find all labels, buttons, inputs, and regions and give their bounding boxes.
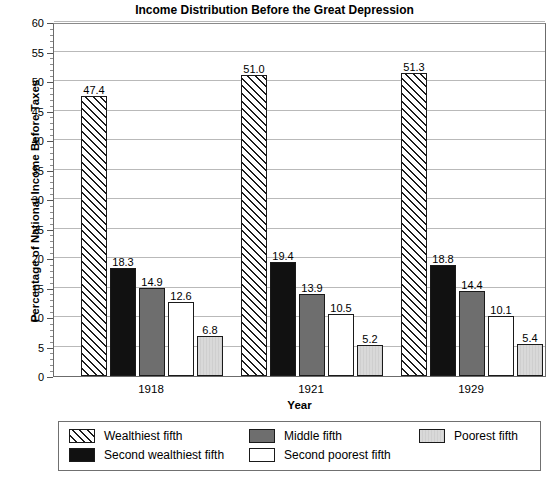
gridline <box>54 228 545 229</box>
bar-value-label: 12.6 <box>162 291 200 302</box>
bar-value-label: 14.4 <box>453 280 491 291</box>
gridline <box>54 139 545 140</box>
legend-entry: Middle fifth <box>249 428 342 444</box>
gridline <box>54 80 545 81</box>
x-axis-tick-label: 1921 <box>271 383 351 395</box>
y-axis-tick-label: 45 <box>32 107 44 118</box>
y-axis-tick-label: 0 <box>38 372 44 383</box>
bar <box>270 262 296 376</box>
bar <box>197 336 223 376</box>
bar-value-label: 6.8 <box>191 325 229 336</box>
gridline <box>54 110 545 111</box>
bar <box>401 73 427 376</box>
bar-value-label: 13.9 <box>293 283 331 294</box>
gridline <box>54 169 545 170</box>
x-axis-tick-label: 1929 <box>431 383 511 395</box>
y-axis-tick-label: 30 <box>32 195 44 206</box>
y-axis-tick-label: 25 <box>32 225 44 236</box>
legend-label: Wealthiest fifth <box>104 430 182 443</box>
plot-area: 47.418.314.912.66.851.019.413.910.55.251… <box>53 23 546 377</box>
y-axis-tick-label: 50 <box>32 77 44 88</box>
bar <box>81 96 107 376</box>
legend-label: Second wealthiest fifth <box>104 449 224 462</box>
bar <box>517 344 543 376</box>
bar-value-label: 47.4 <box>75 85 113 96</box>
y-axis-tick-label: 60 <box>32 18 44 29</box>
y-axis-tick-label: 5 <box>38 343 44 354</box>
legend-entry: Second poorest fifth <box>249 447 391 463</box>
chart-title: Income Distribution Before the Great Dep… <box>0 3 549 17</box>
gridline <box>54 198 545 199</box>
legend-swatch <box>249 429 275 443</box>
legend-label: Second poorest fifth <box>284 449 391 462</box>
gridline <box>54 21 545 22</box>
y-axis-tick-label: 35 <box>32 166 44 177</box>
chart-legend: Wealthiest fifthSecond wealthiest fifthM… <box>58 421 541 471</box>
bar-value-label: 51.3 <box>395 62 433 73</box>
legend-swatch <box>69 448 95 462</box>
y-axis-tick-label: 40 <box>32 136 44 147</box>
legend-swatch <box>69 429 95 443</box>
y-axis-tick-label: 10 <box>32 313 44 324</box>
legend-entry: Poorest fifth <box>419 428 518 444</box>
bar-value-label: 5.2 <box>351 334 389 345</box>
legend-entry: Second wealthiest fifth <box>69 447 224 463</box>
y-axis-tick-label: 20 <box>32 254 44 265</box>
bar <box>168 302 194 376</box>
bar <box>459 291 485 376</box>
y-axis: 051015202530354045505560 <box>0 23 53 379</box>
legend-swatch <box>419 429 445 443</box>
legend-label: Middle fifth <box>284 430 342 443</box>
legend-entry: Wealthiest fifth <box>69 428 182 444</box>
bar-value-label: 10.5 <box>322 303 360 314</box>
gridline <box>54 51 545 52</box>
bar-value-label: 19.4 <box>264 251 302 262</box>
legend-swatch <box>249 448 275 462</box>
bar-value-label: 5.4 <box>511 333 549 344</box>
bar-value-label: 18.8 <box>424 254 462 265</box>
x-axis-title: Year <box>53 399 546 411</box>
bar-value-label: 18.3 <box>104 257 142 268</box>
y-axis-tick-label: 55 <box>32 48 44 59</box>
bar-value-label: 10.1 <box>482 305 520 316</box>
bar <box>241 75 267 376</box>
bar <box>488 316 514 376</box>
y-axis-tick-label: 15 <box>32 284 44 295</box>
x-axis-tick-label: 1918 <box>111 383 191 395</box>
bar <box>357 345 383 376</box>
y-tick-major <box>47 377 53 378</box>
legend-label: Poorest fifth <box>454 430 518 443</box>
bar-value-label: 51.0 <box>235 64 273 75</box>
bar-value-label: 14.9 <box>133 277 171 288</box>
